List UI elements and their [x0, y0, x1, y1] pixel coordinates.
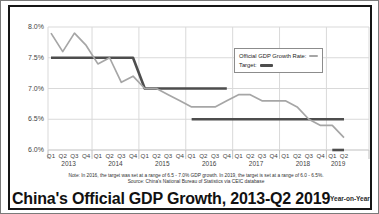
legend-item-target: Target: — [239, 62, 318, 68]
x-year-label: 2013 — [54, 160, 84, 168]
x-year-label: 2018 — [288, 160, 318, 168]
x-quarter-label: Q2 — [197, 152, 209, 159]
x-quarter-label: Q2 — [338, 152, 350, 159]
x-quarter-label: Q3 — [115, 152, 127, 159]
title-bar: China's Official GDP Growth, 2013-Q2 201… — [12, 188, 366, 209]
source-note: Source: China's National Bureau of Stati… — [31, 179, 361, 184]
x-quarter-label: Q3 — [256, 152, 268, 159]
x-quarter-label: Q4 — [174, 152, 186, 159]
x-quarter-label: Q4 — [80, 152, 92, 159]
x-quarter-label: Q3 — [303, 152, 315, 159]
x-quarter-label: Q4 — [127, 152, 139, 159]
x-quarter-label: Q4 — [268, 152, 280, 159]
x-quarter-label: Q1 — [139, 152, 151, 159]
x-year-label: 2014 — [100, 160, 130, 168]
y-tick-label: 8.0% — [16, 23, 44, 31]
y-tick-label: 6.0% — [16, 146, 44, 154]
x-year-label: 2015 — [147, 160, 177, 168]
y-tick-label: 7.5% — [16, 54, 44, 62]
x-quarter-label: Q1 — [233, 152, 245, 159]
x-year-label: 2017 — [241, 160, 271, 168]
x-quarter-label: Q1 — [326, 152, 338, 159]
x-quarter-label: Q1 — [92, 152, 104, 159]
x-quarter-label: Q1 — [45, 152, 57, 159]
x-quarter-label: Q2 — [291, 152, 303, 159]
year-on-year-label: Year-on-Year — [330, 195, 370, 202]
chart-title: China's Official GDP Growth, 2013-Q2 201… — [12, 190, 330, 208]
x-quarter-label: Q1 — [279, 152, 291, 159]
x-quarter-label: Q2 — [150, 152, 162, 159]
x-quarter-label: Q4 — [315, 152, 327, 159]
x-quarter-label: Q1 — [186, 152, 198, 159]
legend-item-gdp: Official GDP Growth Rate: — [239, 53, 318, 59]
x-year-label: 2019 — [323, 160, 353, 168]
x-quarter-label: Q2 — [57, 152, 69, 159]
x-quarter-label: Q2 — [104, 152, 116, 159]
y-tick-label: 6.5% — [16, 115, 44, 123]
x-year-label: 2016 — [194, 160, 224, 168]
legend-swatch-gdp-line — [309, 55, 318, 58]
x-quarter-label: Q3 — [209, 152, 221, 159]
x-quarter-label: Q2 — [244, 152, 256, 159]
x-quarter-label: Q4 — [221, 152, 233, 159]
legend-label-target: Target: — [239, 62, 257, 68]
legend: Official GDP Growth Rate: Target: — [234, 48, 323, 73]
gdp-chart-card: 8.0%7.5%7.0%6.5%6.0% Q1Q2Q3Q4Q1Q2Q3Q4Q1Q… — [0, 0, 379, 214]
y-tick-label: 7.0% — [16, 85, 44, 93]
footnote: Note: In 2016, the target was set at a r… — [31, 173, 361, 178]
x-quarter-label: Q3 — [68, 152, 80, 159]
legend-swatch-target-line — [260, 64, 273, 68]
x-quarter-label: Q3 — [162, 152, 174, 159]
legend-label-gdp: Official GDP Growth Rate: — [239, 53, 306, 59]
